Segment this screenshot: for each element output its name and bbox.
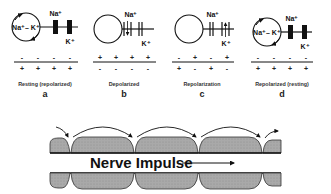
pump-label: Na⁺– K⁺ [12, 24, 40, 31]
svg-text:-: - [289, 54, 292, 61]
svg-text:+: + [52, 65, 56, 72]
svg-text:+: + [272, 65, 276, 72]
pump-label: Na⁺– K⁺ [253, 29, 281, 36]
cell-icon [175, 15, 203, 43]
panel-c: Na⁺ K⁺ - + - + + - + - Repolarization c [172, 11, 234, 99]
cell-icon [94, 15, 122, 43]
svg-text:+: + [130, 54, 134, 61]
na-label: Na⁺ [286, 15, 299, 22]
k-label: K⁺ [300, 43, 309, 50]
diagram-canvas: Na⁺– K⁺ Na⁺ K⁺ - - - - + + + + Resting (… [0, 0, 331, 194]
pump-icon: Na⁺– K⁺ [12, 13, 40, 41]
charge-row-inside: + + + + [256, 65, 308, 72]
panel-caption: Repolarized (resting) [255, 81, 309, 87]
k-label: K⁺ [141, 40, 150, 47]
saltatory-arrows [56, 127, 278, 138]
panel-caption: Resting (repolarized) [18, 81, 72, 87]
na-label: Na⁺ [207, 11, 220, 18]
svg-text:-: - [147, 65, 150, 72]
charge-row-outside: - - - - [257, 54, 308, 61]
svg-text:+: + [98, 54, 102, 61]
pump-icon: Na⁺– K⁺ [253, 18, 281, 46]
svg-text:+: + [36, 65, 40, 72]
svg-text:+: + [68, 65, 72, 72]
panel-caption: Depolarized [109, 81, 140, 87]
k-label: K⁺ [65, 38, 74, 45]
svg-text:-: - [273, 54, 276, 61]
svg-text:-: - [115, 65, 118, 72]
svg-text:+: + [225, 54, 229, 61]
svg-text:-: - [194, 65, 197, 72]
k-channel-closed [302, 25, 307, 39]
svg-text:+: + [20, 65, 24, 72]
svg-text:+: + [114, 54, 118, 61]
svg-text:-: - [131, 65, 134, 72]
na-channel-closed [53, 20, 58, 34]
charge-row-outside: - - - - [21, 54, 72, 61]
myelin-top [50, 137, 281, 153]
myelin-bottom [50, 173, 281, 189]
svg-text:-: - [69, 54, 72, 61]
charge-row-outside: + + + + [98, 54, 150, 61]
panel-letter: c [199, 89, 204, 99]
svg-text:-: - [99, 65, 102, 72]
svg-text:+: + [288, 65, 292, 72]
k-channel-closed [67, 20, 72, 34]
panel-d: Na⁺– K⁺ Na⁺ K⁺ - - - - + + + + Repolariz… [251, 15, 313, 99]
na-label: Na⁺ [125, 11, 138, 18]
charge-row-inside: - - - - [99, 65, 150, 72]
svg-text:-: - [53, 54, 56, 61]
panel-b: Na⁺ K⁺ + + + + - - - - Depolarized b [93, 11, 156, 99]
panel-letter: b [121, 89, 127, 99]
panel-caption: Repolarization [183, 81, 220, 87]
svg-text:-: - [257, 54, 260, 61]
panel-letter: a [42, 89, 48, 99]
svg-text:-: - [226, 65, 229, 72]
svg-text:-: - [37, 54, 40, 61]
na-label: Na⁺ [50, 10, 63, 17]
na-channel-closed [288, 25, 293, 39]
charge-row-outside: - + - + [178, 54, 229, 61]
charge-row-inside: + + + + [20, 65, 72, 72]
k-label: K⁺ [221, 40, 230, 47]
svg-text:-: - [210, 54, 213, 61]
svg-text:+: + [177, 65, 181, 72]
charge-row-inside: + - + - [177, 65, 229, 72]
nerve-impulse-label: Nerve Impulse [90, 154, 193, 171]
svg-text:-: - [21, 54, 24, 61]
svg-text:+: + [256, 65, 260, 72]
svg-text:-: - [305, 54, 308, 61]
svg-text:+: + [193, 54, 197, 61]
svg-text:-: - [178, 54, 181, 61]
nerve-fiber: Nerve Impulse [50, 127, 281, 189]
svg-text:+: + [209, 65, 213, 72]
panel-a: Na⁺– K⁺ Na⁺ K⁺ - - - - + + + + Resting (… [12, 10, 78, 99]
svg-text:+: + [304, 65, 308, 72]
svg-text:+: + [146, 54, 150, 61]
panel-letter: d [279, 89, 285, 99]
